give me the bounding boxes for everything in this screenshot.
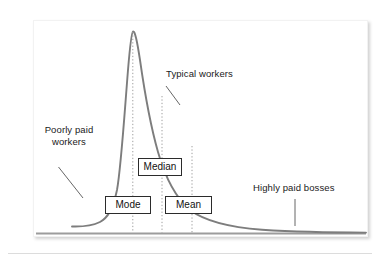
poorly-paid-workers-label: Poorly paid workers — [42, 124, 96, 147]
mean-box: Mean — [165, 196, 212, 214]
highly-paid-bosses-label: Highly paid bosses — [253, 182, 335, 194]
median-box: Median — [138, 158, 182, 176]
typical-workers-leader-line — [166, 86, 180, 105]
footer-divider — [8, 253, 372, 254]
typical-workers-label: Typical workers — [166, 68, 233, 80]
poorly-paid-leader-line — [59, 167, 84, 198]
mode-box: Mode — [105, 196, 151, 214]
figure-container: Poorly paid workers Typical workers High… — [0, 0, 380, 264]
